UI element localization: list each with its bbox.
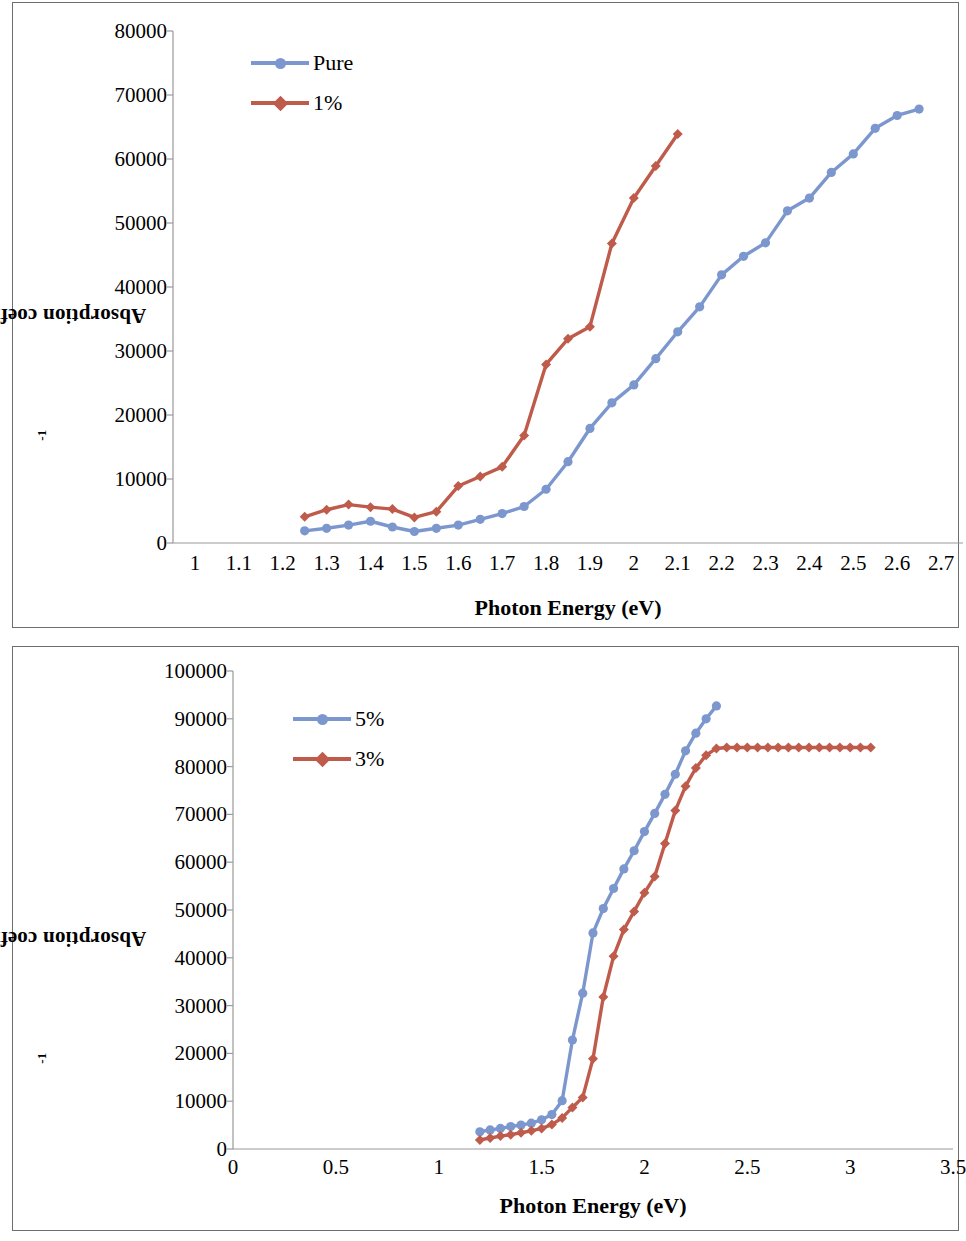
data-point-marker [845, 742, 855, 752]
data-point-marker [599, 904, 608, 913]
data-point-marker [893, 111, 902, 120]
data-point-marker [558, 1096, 567, 1105]
data-point-marker [485, 1133, 495, 1143]
data-point-marker [681, 746, 690, 755]
x-tick-label: 2.6 [884, 551, 910, 576]
series-1 [300, 129, 683, 522]
data-point-marker [498, 509, 507, 518]
data-point-marker [520, 502, 529, 511]
data-point-marker [742, 742, 752, 752]
x-tick-label: 2.3 [752, 551, 778, 576]
data-point-marker [695, 302, 704, 311]
data-point-marker [640, 827, 649, 836]
data-point-marker [794, 742, 804, 752]
x-tick-label: 3 [845, 1155, 856, 1180]
data-point-marker [722, 742, 732, 752]
data-point-marker [871, 124, 880, 133]
data-point-marker [671, 770, 680, 779]
y-tick-label: 80000 [115, 19, 168, 44]
data-point-marker [432, 524, 441, 533]
series-3 [475, 742, 876, 1144]
data-point-marker [366, 517, 375, 526]
data-point-marker [598, 992, 608, 1002]
legend-item[interactable]: Pure [251, 43, 353, 83]
x-tick-label: 0.5 [323, 1155, 349, 1180]
y-tick-label: 20000 [115, 403, 168, 428]
chart-panel-bottom: Absorption coefficient (cm)-1 0100002000… [12, 646, 959, 1231]
data-point-marker [915, 104, 924, 113]
x-tick-label: 1.3 [313, 551, 339, 576]
x-tick-label: 1.7 [489, 551, 515, 576]
y-axis-title-exponent-bottom: -1 [34, 1052, 49, 1063]
data-point-marker [322, 524, 331, 533]
data-point-marker [409, 512, 419, 522]
series-5 [475, 701, 721, 1136]
legend-label: Pure [309, 50, 353, 76]
data-point-marker [651, 354, 660, 363]
data-point-marker [717, 270, 726, 279]
data-point-marker [827, 168, 836, 177]
x-tick-label: 1 [433, 1155, 444, 1180]
y-tick-label: 70000 [175, 802, 228, 827]
y-tick-label: 80000 [175, 754, 228, 779]
y-tick-label: 60000 [115, 147, 168, 172]
y-tick-label: 30000 [115, 339, 168, 364]
y-axis-title-exponent-top: -1 [34, 429, 49, 440]
legend-label: 1% [309, 90, 342, 116]
legend-item[interactable]: 5% [293, 699, 384, 739]
x-tick-label: 2.4 [796, 551, 822, 576]
data-point-marker [526, 1126, 536, 1136]
y-axis-tick-labels-top: 0100002000030000400005000060000700008000… [55, 3, 173, 627]
x-tick-label: 2.5 [734, 1155, 760, 1180]
legend-item[interactable]: 3% [293, 739, 384, 779]
data-point-marker [563, 457, 572, 466]
data-point-marker [650, 809, 659, 818]
x-tick-label: 1 [190, 551, 201, 576]
data-point-marker [866, 742, 876, 752]
x-axis-tick-labels-bottom: 00.511.522.533.5 [233, 1155, 953, 1185]
series-line [305, 134, 678, 517]
data-point-marker [588, 1054, 598, 1064]
legend-item[interactable]: 1% [251, 83, 353, 123]
y-tick-label: 100000 [164, 659, 227, 684]
legend-label: 5% [351, 706, 384, 732]
data-point-marker [691, 729, 700, 738]
y-tick-label: 70000 [115, 83, 168, 108]
data-point-marker [849, 149, 858, 158]
data-point-marker [475, 1135, 485, 1145]
data-point-marker [300, 512, 310, 522]
data-point-marker [475, 471, 485, 481]
data-point-marker [344, 500, 354, 510]
data-point-marker [454, 520, 463, 529]
x-axis-title-bottom: Photon Energy (eV) [233, 1193, 953, 1219]
chart-bottom: Absorption coefficient (cm)-1 0100002000… [13, 647, 958, 1230]
data-point-marker [825, 742, 835, 752]
x-tick-label: 1.4 [357, 551, 383, 576]
data-point-marker [578, 989, 587, 998]
data-point-marker [670, 806, 680, 816]
data-point-marker [410, 527, 419, 536]
data-point-marker [783, 206, 792, 215]
data-point-marker [366, 502, 376, 512]
chart-top: Absorption coefficient (cm)-1 0100002000… [13, 3, 958, 627]
x-tick-label: 2.1 [665, 551, 691, 576]
series-pure [300, 104, 924, 536]
data-point-marker [568, 1035, 577, 1044]
data-point-marker [855, 742, 865, 752]
legend-swatch-circle-icon [293, 710, 351, 728]
data-point-marker [773, 742, 783, 752]
x-tick-label: 2 [629, 551, 640, 576]
data-point-marker [609, 951, 619, 961]
x-tick-label: 3.5 [940, 1155, 966, 1180]
data-point-marker [660, 839, 670, 849]
x-axis-tick-labels-top: 11.11.21.31.41.51.61.71.81.922.12.22.32.… [173, 551, 963, 581]
data-point-marker [585, 424, 594, 433]
x-tick-label: 1.2 [270, 551, 296, 576]
legend-swatch-diamond-icon [251, 94, 309, 112]
data-point-marker [541, 485, 550, 494]
legend-label: 3% [351, 746, 384, 772]
y-axis-title-top: Absorption coefficient (cm)-1 [13, 3, 55, 627]
y-tick-label: 50000 [175, 898, 228, 923]
data-point-marker [732, 742, 742, 752]
data-point-marker [506, 1130, 516, 1140]
